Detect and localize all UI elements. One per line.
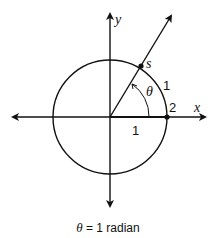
point-s-label: s — [146, 56, 152, 71]
point-s — [138, 63, 143, 68]
caption-text: = 1 radian — [83, 221, 140, 235]
point-2-label: 2 — [169, 100, 176, 115]
angle-theta-label: θ — [146, 84, 153, 99]
radius-label: 1 — [132, 123, 139, 138]
unit-circle-diagram: y x s θ 1 2 1 — [0, 0, 216, 238]
angle-arrow-icon — [132, 84, 137, 89]
x-axis-label: x — [193, 100, 201, 115]
arc-length-label: 1 — [163, 78, 170, 93]
y-axis-label: y — [113, 12, 122, 27]
caption: θ = 1 radian — [0, 220, 216, 236]
point-2 — [164, 114, 169, 119]
